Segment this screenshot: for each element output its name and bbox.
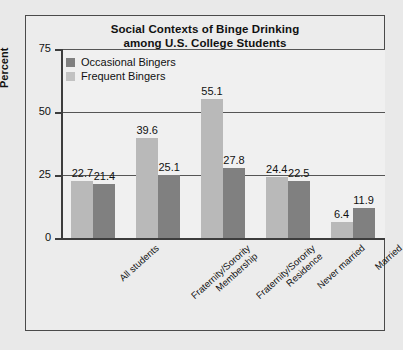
bar-value-label: 6.4: [324, 208, 360, 220]
chart-title: Social Contexts of Binge Drinking among …: [26, 22, 384, 50]
y-axis-tick: [55, 175, 61, 177]
y-axis-tick-label: 0: [17, 231, 51, 243]
bar[interactable]: [136, 138, 158, 238]
bar[interactable]: [266, 177, 288, 238]
chart-title-line-1: Social Contexts of Binge Drinking: [111, 23, 300, 35]
gridline: [61, 49, 385, 50]
bar-value-label: 55.1: [194, 85, 230, 97]
bar[interactable]: [288, 181, 310, 238]
legend-swatch-icon: [66, 58, 75, 67]
bar-value-label: 11.9: [346, 194, 382, 206]
chart-legend: Occasional Bingers Frequent Bingers: [66, 55, 176, 83]
bar-value-label: 27.8: [216, 154, 252, 166]
bar[interactable]: [331, 222, 353, 238]
legend-item-frequent-bingers[interactable]: Frequent Bingers: [66, 69, 176, 83]
y-axis-tick-label: 50: [17, 105, 51, 117]
bar[interactable]: [93, 184, 115, 238]
legend-item-occasional-bingers[interactable]: Occasional Bingers: [66, 55, 176, 69]
y-axis-tick-label: 75: [17, 42, 51, 54]
y-axis-title: Percent: [0, 48, 10, 88]
y-axis-tick-label: 25: [17, 168, 51, 180]
y-axis-line: [61, 49, 63, 239]
bar-value-label: 22.5: [281, 167, 317, 179]
y-axis-tick: [55, 49, 61, 51]
bar[interactable]: [201, 99, 223, 238]
legend-swatch-icon: [66, 72, 75, 81]
bar-value-label: 21.4: [86, 170, 122, 182]
chart-title-line-2: among U.S. College Students: [26, 36, 384, 50]
y-axis-tick: [55, 238, 61, 240]
bar[interactable]: [158, 175, 180, 238]
bar-value-label: 25.1: [151, 161, 187, 173]
bar[interactable]: [71, 181, 93, 238]
bar-value-label: 39.6: [129, 124, 165, 136]
legend-label: Occasional Bingers: [81, 56, 176, 68]
y-axis-tick: [55, 112, 61, 114]
legend-label: Frequent Bingers: [81, 70, 165, 82]
bar[interactable]: [223, 168, 245, 238]
x-axis-line: [61, 238, 385, 240]
gridline: [61, 112, 385, 113]
